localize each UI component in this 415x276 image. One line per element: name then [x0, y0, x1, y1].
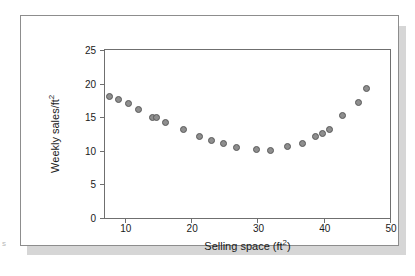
figure-root: Weekly sales/ft2 0510152025 1020304050 S…	[0, 0, 415, 276]
data-point	[135, 106, 142, 113]
data-point	[284, 143, 291, 150]
data-point	[355, 99, 362, 106]
data-point	[319, 130, 326, 137]
y-tick-label: 25	[85, 46, 96, 56]
data-point	[220, 140, 227, 147]
data-point	[162, 119, 169, 126]
data-point	[253, 146, 260, 153]
y-tick-20: 20	[100, 84, 105, 85]
x-tick-label: 50	[385, 224, 396, 234]
data-point	[180, 126, 187, 133]
y-tick-15: 15	[100, 117, 105, 118]
data-point	[106, 93, 113, 100]
x-tick-label: 10	[120, 224, 131, 234]
figure-card: Weekly sales/ft2 0510152025 1020304050 S…	[20, 15, 399, 246]
y-axis-title: Weekly sales/ft2	[47, 49, 61, 219]
data-point	[115, 96, 122, 103]
data-point	[233, 144, 240, 151]
y-tick-25: 25	[100, 50, 105, 51]
scatter-plot-area: 0510152025 1020304050	[104, 49, 391, 219]
x-tick-label: 30	[253, 224, 264, 234]
y-tick-10: 10	[100, 151, 105, 152]
data-point	[153, 114, 160, 121]
data-point	[326, 126, 333, 133]
data-point	[363, 85, 370, 92]
y-axis-title-text: Weekly sales/ft2	[47, 95, 61, 173]
x-axis-title-text: Selling space (ft2)	[204, 240, 290, 252]
x-axis-title: Selling space (ft2)	[104, 238, 391, 252]
y-tick-5: 5	[100, 184, 105, 185]
page-edge-mark: s	[2, 239, 6, 248]
y-tick-label: 20	[85, 80, 96, 90]
y-tick-label: 0	[90, 214, 96, 224]
x-tick-20: 20	[191, 218, 192, 223]
x-tick-label: 40	[319, 224, 330, 234]
x-tick-40: 40	[324, 218, 325, 223]
y-tick-0: 0	[100, 218, 105, 219]
data-point	[208, 137, 215, 144]
x-tick-30: 30	[257, 218, 258, 223]
y-tick-label: 5	[90, 180, 96, 190]
y-tick-label: 15	[85, 113, 96, 123]
y-tick-label: 10	[85, 147, 96, 157]
data-point	[125, 100, 132, 107]
x-tick-label: 20	[187, 224, 198, 234]
data-point	[196, 133, 203, 140]
x-tick-50: 50	[390, 218, 391, 223]
data-point	[267, 147, 274, 154]
data-point	[339, 112, 346, 119]
x-tick-10: 10	[125, 218, 126, 223]
data-point	[299, 140, 306, 147]
